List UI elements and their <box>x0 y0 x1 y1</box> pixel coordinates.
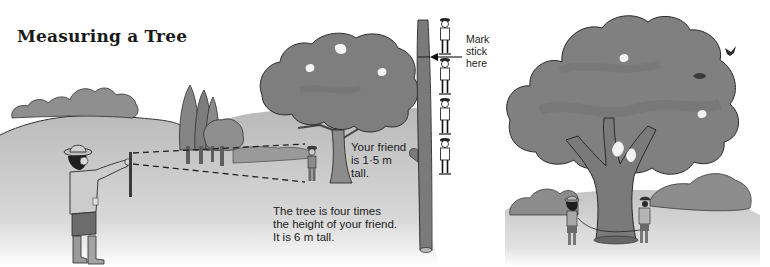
caption-line: Mark <box>466 33 506 45</box>
caption-line: here <box>466 57 506 69</box>
friend-figure-3 <box>439 98 451 134</box>
friend-height-caption: Your friend is 1·5 m tall. <box>351 141 431 180</box>
friend-figure-2 <box>439 58 451 94</box>
bird-icon <box>725 46 736 56</box>
caption-line: Your friend <box>351 141 431 154</box>
caption-line: It is 6 m tall. <box>273 231 453 244</box>
caption-line: The tree is four times <box>273 205 453 218</box>
tree-height-caption: The tree is four times the height of you… <box>273 205 453 244</box>
stacked-friends <box>439 18 451 174</box>
page-title: Measuring a Tree <box>17 26 187 46</box>
caption-line: stick <box>466 45 506 57</box>
sighting-stick <box>129 152 132 197</box>
caption-line: the height of your friend. <box>273 218 453 231</box>
right-scene <box>505 16 760 267</box>
friend-figure-4 <box>439 138 451 174</box>
friend-figure-1 <box>439 18 451 54</box>
distant-bushes <box>12 88 138 118</box>
mark-stick-caption: Mark stick here <box>466 33 506 69</box>
caption-line: is 1·5 m <box>351 154 431 167</box>
measuring-tree-page: Measuring a Tree Mark stick here Your fr… <box>0 0 770 267</box>
caption-line: tall. <box>351 167 431 180</box>
